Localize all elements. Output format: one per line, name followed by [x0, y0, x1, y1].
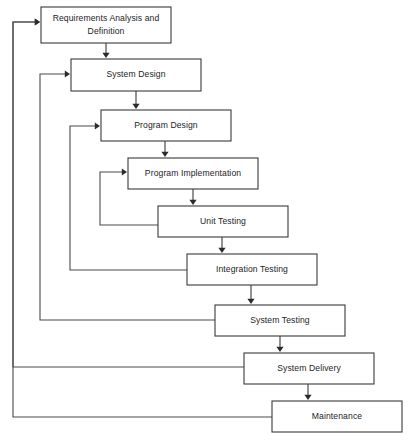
arrow-head-icon-system-design-to-program-design — [132, 104, 139, 109]
arrow-head-icon-system-delivery-to-maintenance — [304, 395, 311, 400]
arrow-unit-testing-to-integration-testing — [218, 237, 225, 253]
stage-label-system-design: System Design — [106, 69, 165, 79]
waterfall-diagram-canvas: Requirements Analysis andDefinitionSyste… — [0, 0, 415, 444]
arrow-requirements-to-system-design — [102, 43, 109, 58]
stage-box-integration-testing[interactable]: Integration Testing — [187, 254, 317, 285]
arrow-head-icon-program-implementation-to-unit-testing — [189, 200, 196, 205]
feedback-arrow-head-icon-system-testing-to-system-design — [65, 70, 70, 77]
stage-label-maintenance: Maintenance — [312, 411, 362, 421]
waterfall-diagram: Requirements Analysis andDefinitionSyste… — [0, 0, 415, 444]
stage-box-system-design[interactable]: System Design — [71, 59, 201, 91]
arrow-program-design-to-program-implementation — [161, 141, 168, 157]
arrow-system-testing-to-system-delivery — [276, 336, 283, 352]
arrow-program-implementation-to-unit-testing — [189, 189, 196, 205]
stage-label-system-testing: System Testing — [250, 315, 310, 325]
arrow-system-design-to-program-design — [132, 91, 139, 109]
stage-label-system-delivery: System Delivery — [277, 363, 341, 373]
arrow-head-icon-integration-testing-to-system-testing — [247, 299, 254, 304]
arrow-integration-testing-to-system-testing — [247, 285, 254, 304]
arrow-head-icon-requirements-to-system-design — [102, 53, 109, 58]
arrow-head-icon-system-testing-to-system-delivery — [276, 347, 283, 352]
feedback-arrow-head-icon-unit-testing-to-program-implementation — [122, 168, 127, 175]
feedback-integration-testing-to-program-design — [70, 122, 187, 270]
stage-box-program-design[interactable]: Program Design — [101, 110, 231, 141]
feedback-arrow-head-icon-integration-testing-to-program-design — [95, 122, 100, 129]
stage-label-integration-testing: Integration Testing — [216, 264, 288, 274]
stage-label-requirements-line1: Requirements Analysis and — [53, 13, 160, 23]
stage-box-unit-testing[interactable]: Unit Testing — [158, 206, 288, 237]
arrow-head-icon-unit-testing-to-integration-testing — [218, 248, 225, 253]
stage-box-maintenance[interactable]: Maintenance — [272, 401, 402, 432]
stage-label-program-implementation: Program Implementation — [145, 168, 241, 178]
feedback-path-integration-testing-to-program-design — [70, 126, 187, 270]
stage-box-program-implementation[interactable]: Program Implementation — [128, 158, 258, 189]
stage-box-layer: Requirements Analysis andDefinitionSyste… — [41, 7, 402, 432]
stage-label-unit-testing: Unit Testing — [200, 216, 246, 226]
stage-box-system-testing[interactable]: System Testing — [215, 305, 345, 336]
stage-label-program-design: Program Design — [134, 120, 198, 130]
stage-label-requirements-line2: Definition — [88, 26, 125, 36]
feedback-arrow-head-icon-maintenance-to-requirements — [35, 18, 40, 25]
stage-box-requirements[interactable]: Requirements Analysis andDefinition — [41, 7, 171, 43]
arrow-head-icon-program-design-to-program-implementation — [161, 152, 168, 157]
arrow-system-delivery-to-maintenance — [304, 384, 311, 400]
stage-box-system-delivery[interactable]: System Delivery — [244, 353, 374, 384]
